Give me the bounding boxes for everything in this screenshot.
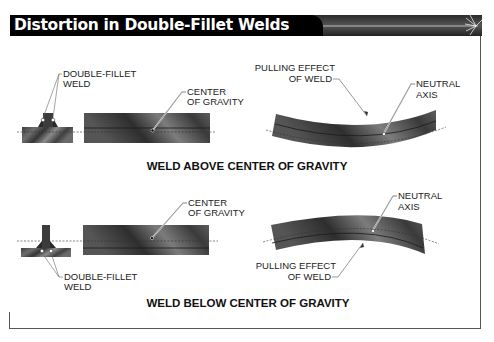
- diagram: DOUBLE-FILLET WELD CENTER OF GRAVITY PUL…: [0, 0, 494, 342]
- bottom-bent-plate: [263, 215, 439, 254]
- top-pull-leader: [333, 79, 367, 116]
- top-pull-label-2: OF WELD: [289, 73, 332, 84]
- top-side-view: [84, 113, 210, 143]
- top-cog-label-2: OF GRAVITY: [187, 96, 244, 107]
- top-weld-leader: [43, 74, 62, 118]
- bottom-axis-label-1: NEUTRAL: [398, 190, 442, 201]
- top-bent-plate: [266, 110, 446, 147]
- bottom-pull-label-1: PULLING EFFECT: [256, 260, 336, 271]
- bottom-side-view: [83, 225, 209, 255]
- top-axis-label-2: AXIS: [416, 89, 438, 100]
- bottom-pull-label-2: OF WELD: [288, 271, 331, 282]
- bottom-weld-label-2: WELD: [64, 281, 92, 292]
- top-axis-label-1: NEUTRAL: [416, 78, 460, 89]
- top-pull-label-1: PULLING EFFECT: [255, 62, 335, 73]
- page-title: Distortion in Double-Fillet Welds: [10, 15, 323, 36]
- bottom-cog-label-2: OF GRAVITY: [188, 207, 245, 218]
- top-caption: WELD ABOVE CENTER OF GRAVITY: [147, 160, 348, 172]
- bottom-caption: WELD BELOW CENTER OF GRAVITY: [147, 297, 350, 309]
- top-weld-label-2: WELD: [63, 78, 91, 89]
- top-cross-section: [22, 113, 73, 143]
- bottom-pull-leader: [332, 243, 363, 277]
- bottom-axis-label-2: AXIS: [398, 201, 420, 212]
